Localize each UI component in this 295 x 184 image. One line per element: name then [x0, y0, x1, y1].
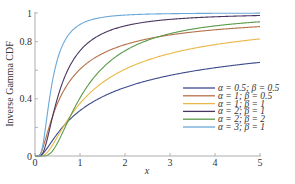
- y-tick-label: 0.4: [20, 93, 33, 104]
- x-tick-label: 5: [258, 157, 263, 168]
- y-tick-label: 1: [27, 8, 32, 19]
- x-tick-label: 1: [78, 157, 83, 168]
- legend: α = 0.5; β = 0.5α = 1; β = 0.5α = 1; β =…: [183, 83, 280, 132]
- y-tick-label: 0: [27, 151, 32, 162]
- x-tick-label: 3: [168, 157, 173, 168]
- legend-item: α = 3; β = 1: [183, 122, 265, 132]
- y-tick-label: 0.8: [20, 36, 33, 47]
- x-axis-title: x: [144, 165, 150, 176]
- y-axis-title: Inverse Gamma CDF: [4, 41, 15, 127]
- legend-label: α = 3; β = 1: [218, 122, 265, 132]
- x-tick-label: 0: [33, 157, 38, 168]
- x-tick-label: 2: [123, 157, 128, 168]
- x-tick-label: 4: [213, 157, 218, 168]
- inverse-gamma-cdf-chart: 00.40.81 012345 Inverse Gamma CDF x α = …: [0, 0, 295, 184]
